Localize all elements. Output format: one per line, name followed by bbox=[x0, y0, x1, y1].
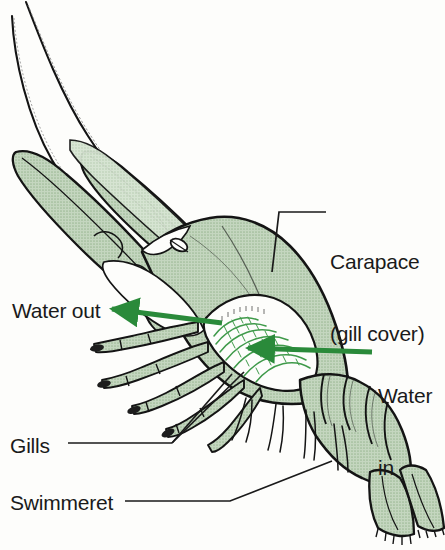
water-out-label: Water out bbox=[12, 299, 100, 323]
figure-canvas: Carapace (gill cover) Water out Water in… bbox=[0, 0, 445, 550]
carapace-label-line1: Carapace bbox=[330, 250, 424, 274]
water-in-label-line1: Water bbox=[378, 384, 432, 408]
walking-leg-1 bbox=[94, 322, 198, 352]
water-in-label-line2: in bbox=[378, 456, 432, 480]
swimmeret-3b bbox=[314, 412, 316, 460]
swimmeret-3 bbox=[304, 410, 306, 458]
swimmeret-2 bbox=[268, 404, 276, 450]
swimmeret-label: Swimmeret bbox=[10, 491, 113, 515]
leader-swimmeret bbox=[125, 461, 332, 501]
water-in-label: Water in bbox=[378, 336, 432, 528]
gills-label: Gills bbox=[10, 434, 50, 458]
swimmeret-2b bbox=[280, 406, 283, 452]
